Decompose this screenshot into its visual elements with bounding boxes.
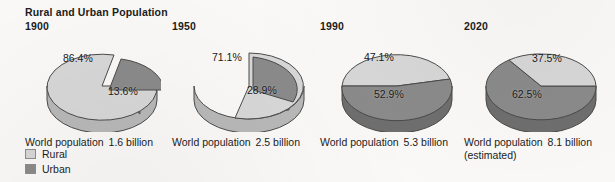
world-population-value: 2.5 billion — [256, 136, 300, 148]
pie-chart-2020: 37.5% 62.5% — [482, 40, 600, 132]
rural-percent-label: 47.1% — [364, 51, 394, 63]
world-population-label: World population — [320, 136, 399, 148]
panel-1900: 1900 86.4% 13.6% World population1.6 b — [25, 20, 180, 165]
panel-1990: 1990 47.1% 52.9% World population5.3 bil… — [320, 20, 475, 165]
panel-footer-1950: World population2.5 billion — [172, 136, 300, 149]
panel-2020: 2020 37.5% 62.5% World population8.1 bil… — [464, 20, 615, 165]
pie-chart-1900: 86.4% 13.6% — [43, 40, 161, 132]
rural-percent-label: 86.4% — [63, 52, 93, 64]
panel-year-label: 1900 — [25, 20, 49, 32]
legend-item-rural: Rural — [25, 146, 71, 161]
world-population-value: 8.1 billion — [548, 136, 592, 148]
world-population-label: World population — [464, 136, 543, 148]
pie-panels: 1900 86.4% 13.6% World population1.6 b — [0, 0, 615, 182]
legend-label-rural: Rural — [42, 148, 67, 160]
panel-1950: 1950 71.1% 28.9% World population2.5 bil… — [172, 20, 327, 165]
legend-swatch-urban-icon — [25, 164, 36, 174]
urban-percent-label: 52.9% — [374, 88, 404, 100]
panel-footer-2020: World population8.1 billion (estimated) — [464, 136, 592, 162]
legend-label-urban: Urban — [42, 163, 71, 175]
rural-percent-label: 71.1% — [212, 51, 242, 63]
legend-item-urban: Urban — [25, 161, 71, 176]
urban-percent-label: 13.6% — [108, 85, 138, 97]
panel-footer-1990: World population5.3 billion — [320, 136, 448, 149]
pie-chart-1950: 71.1% 28.9% — [190, 40, 308, 132]
rural-percent-label: 37.5% — [532, 52, 562, 64]
panel-year-label: 1950 — [172, 20, 196, 32]
estimated-note: (estimated) — [464, 149, 592, 162]
world-population-value: 5.3 billion — [404, 136, 448, 148]
legend-swatch-rural-icon — [25, 149, 36, 159]
legend: Rural Urban — [25, 146, 71, 176]
world-population-label: World population — [172, 136, 251, 148]
panel-year-label: 1990 — [320, 20, 344, 32]
panel-year-label: 2020 — [464, 20, 488, 32]
urban-percent-label: 28.9% — [247, 84, 277, 96]
rural-urban-population-figure: Rural and Urban Population 1900 86.4% 1 — [0, 0, 615, 182]
world-population-value: 1.6 billion — [109, 136, 153, 148]
pie-chart-1990: 47.1% 52.9% — [338, 40, 456, 132]
urban-percent-label: 62.5% — [512, 88, 542, 100]
